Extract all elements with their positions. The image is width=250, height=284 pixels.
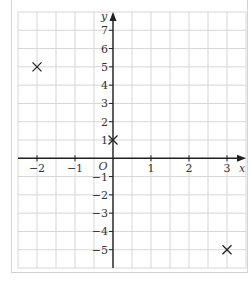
- y-axis-label: y: [100, 10, 108, 23]
- y-tick-label: −5: [92, 244, 108, 257]
- coordinate-grid-chart: −2−1123−5−4−3−2−11234567 xyO: [0, 0, 250, 284]
- x-tick-label: 2: [186, 162, 193, 175]
- axis-labels: xyO: [98, 10, 245, 175]
- y-axis-arrow-icon: [110, 12, 117, 21]
- x-tick-label: −1: [67, 162, 83, 175]
- y-tick-label: 3: [101, 97, 108, 110]
- y-tick-label: 4: [101, 79, 108, 92]
- y-tick-label: 1: [101, 134, 108, 147]
- y-tick-label: 2: [101, 116, 108, 129]
- y-tick-label: 7: [101, 24, 108, 37]
- x-tick-label: 1: [148, 162, 155, 175]
- origin-label: O: [98, 160, 107, 173]
- x-axis-label: x: [239, 162, 246, 175]
- x-axis-arrow-icon: [237, 155, 246, 162]
- y-tick-label: −3: [92, 207, 108, 220]
- y-tick-label: 5: [101, 61, 108, 74]
- y-tick-label: −4: [92, 225, 108, 238]
- x-tick-label: 3: [224, 162, 231, 175]
- grid-lines: [18, 12, 246, 268]
- x-tick-label: −2: [29, 162, 45, 175]
- y-tick-label: −2: [92, 189, 108, 202]
- y-tick-label: 6: [101, 43, 108, 56]
